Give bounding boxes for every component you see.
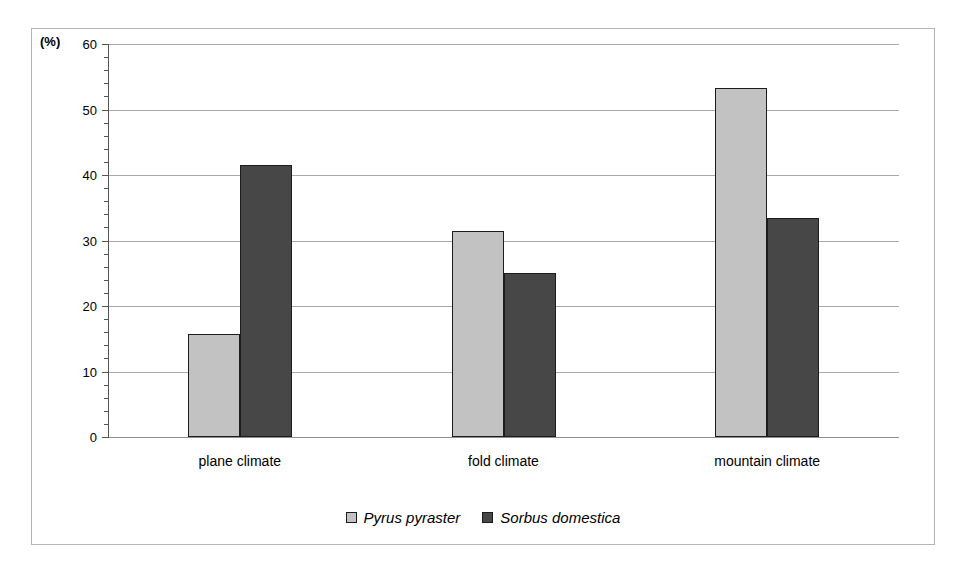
axis-tick-major [102, 241, 109, 242]
bar [715, 88, 767, 437]
gridline [108, 44, 899, 45]
gridline [108, 175, 899, 176]
bar [504, 273, 556, 437]
axis-tick-minor [104, 227, 109, 228]
y-axis-tick-label: 20 [83, 299, 97, 314]
legend-swatch-icon [482, 512, 493, 523]
x-axis-category-label: mountain climate [714, 453, 820, 469]
axis-tick-major [102, 44, 109, 45]
axis-tick-minor [104, 136, 109, 137]
axis-tick-minor [104, 83, 109, 84]
chart-figure: (%) 0102030405060 plane climatefold clim… [31, 28, 935, 545]
axis-tick-minor [104, 57, 109, 58]
bar [767, 218, 819, 437]
axis-tick-major [102, 437, 109, 438]
y-axis-tick-label: 60 [83, 37, 97, 52]
y-axis-tick-label: 50 [83, 102, 97, 117]
axis-tick-minor [104, 123, 109, 124]
y-axis-tick-label: 0 [90, 430, 97, 445]
axis-tick-minor [104, 70, 109, 71]
axis-tick-minor [104, 254, 109, 255]
axis-tick-minor [104, 201, 109, 202]
legend-item: Pyrus pyraster [346, 509, 461, 526]
axis-tick-minor [104, 411, 109, 412]
axis-tick-minor [104, 96, 109, 97]
legend-swatch-icon [346, 512, 357, 523]
axis-tick-minor [104, 424, 109, 425]
axis-tick-minor [104, 332, 109, 333]
axis-tick-minor [104, 358, 109, 359]
axis-tick-minor [104, 345, 109, 346]
gridline [108, 110, 899, 111]
legend-label: Pyrus pyraster [364, 509, 461, 526]
axis-tick-minor [104, 188, 109, 189]
bar [188, 334, 240, 437]
axis-tick-minor [104, 385, 109, 386]
axis-tick-minor [104, 293, 109, 294]
plot-area: 0102030405060 plane climatefold climatem… [108, 44, 899, 437]
gridline [108, 437, 899, 438]
axis-tick-minor [104, 214, 109, 215]
bar [240, 165, 292, 437]
y-axis-tick-label: 30 [83, 233, 97, 248]
axis-tick-major [102, 306, 109, 307]
axis-tick-minor [104, 162, 109, 163]
y-axis-tick-label: 40 [83, 168, 97, 183]
axis-tick-major [102, 175, 109, 176]
legend-item: Sorbus domestica [482, 509, 620, 526]
bar [452, 231, 504, 437]
axis-tick-major [102, 110, 109, 111]
axis-unit-caption: (%) [40, 34, 60, 49]
axis-tick-minor [104, 398, 109, 399]
axis-tick-minor [104, 319, 109, 320]
axis-tick-minor [104, 280, 109, 281]
axis-tick-minor [104, 149, 109, 150]
axis-tick-minor [104, 267, 109, 268]
y-axis-tick-label: 10 [83, 364, 97, 379]
chart-legend: Pyrus pyrasterSorbus domestica [32, 509, 934, 526]
x-axis-category-label: plane climate [199, 453, 282, 469]
axis-tick-major [102, 372, 109, 373]
x-axis-category-label: fold climate [468, 453, 539, 469]
legend-label: Sorbus domestica [500, 509, 620, 526]
